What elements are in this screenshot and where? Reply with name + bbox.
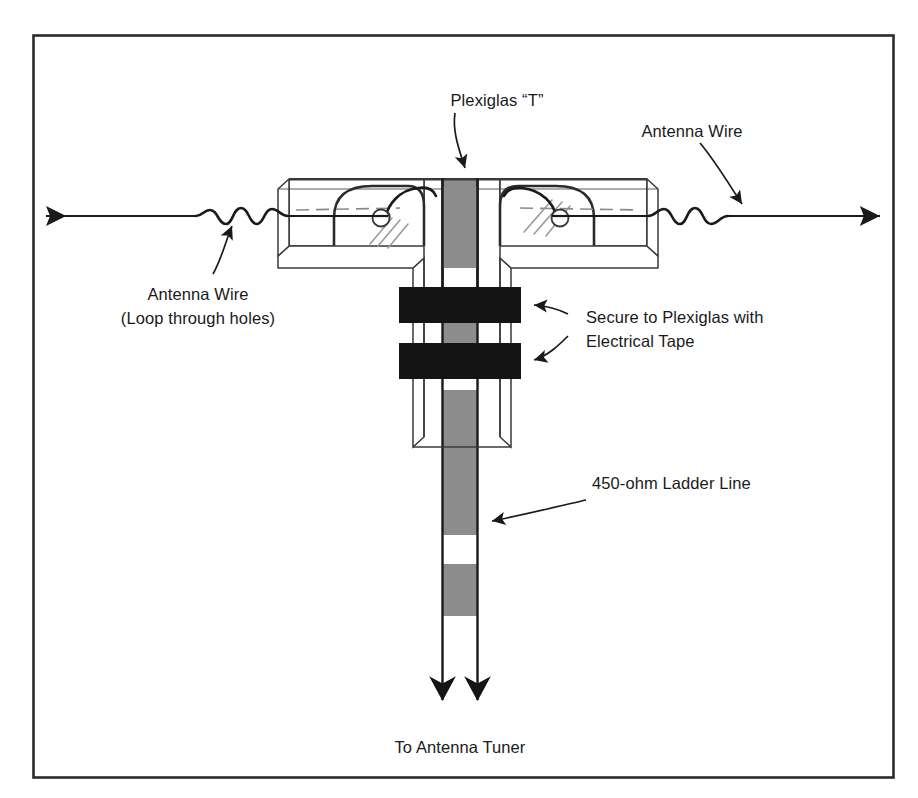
plexiglas-hole-left xyxy=(373,210,390,227)
label-ladder-line: 450-ohm Ladder Line xyxy=(592,474,751,492)
plexiglas-left-end-cap xyxy=(278,179,289,256)
antenna-center-insulator-diagram: Plexiglas “T” Antenna Wire Antenna Wire … xyxy=(0,0,918,798)
plexiglas-crossbar-lower-lip-left xyxy=(278,246,424,268)
antenna-wire-left-coil xyxy=(196,208,288,224)
leader-tape-upper xyxy=(534,305,568,314)
leader-tape-lower xyxy=(534,336,568,360)
leader-antenna-wire-left xyxy=(213,226,232,274)
label-secure-tape-line1: Secure to Plexiglas with xyxy=(586,308,764,326)
figure-root: Plexiglas “T” Antenna Wire Antenna Wire … xyxy=(0,0,918,798)
leader-antenna-wire-right xyxy=(700,143,742,204)
ladder-window xyxy=(442,564,478,616)
label-to-antenna-tuner: To Antenna Tuner xyxy=(395,738,526,756)
label-antenna-wire-right: Antenna Wire xyxy=(641,122,742,140)
electrical-tape-band xyxy=(399,343,521,379)
plexiglas-crossbar-lower-lip-right xyxy=(500,246,658,268)
electrical-tape-band xyxy=(399,287,521,323)
ladder-window xyxy=(442,390,478,535)
ladder-window-through-t xyxy=(442,186,478,268)
plexiglas-hole-right xyxy=(552,210,569,227)
label-secure-tape-line2: Electrical Tape xyxy=(586,332,695,350)
leader-plexiglas-t xyxy=(454,113,465,168)
antenna-wire-right-coil xyxy=(648,208,728,224)
plexiglas-crossbar-top-band xyxy=(289,178,647,181)
label-antenna-wire-left-line2: (Loop through holes) xyxy=(121,309,275,327)
plexiglas-right-end-cap xyxy=(647,179,658,256)
leader-ladder-line xyxy=(492,500,586,521)
label-antenna-wire-left-line1: Antenna Wire xyxy=(147,285,248,303)
label-plexiglas-t: Plexiglas “T” xyxy=(451,91,544,109)
